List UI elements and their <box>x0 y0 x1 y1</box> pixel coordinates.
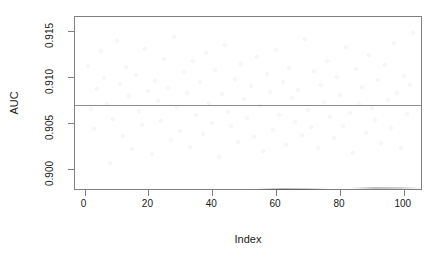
scatter-point <box>392 41 396 45</box>
scatter-point <box>102 76 106 80</box>
scatter-point <box>233 77 237 81</box>
scatter-point <box>351 151 355 155</box>
scatter-point <box>303 37 307 41</box>
scatter-point <box>300 133 304 137</box>
plot-area <box>74 16 422 190</box>
scatter-point <box>146 89 150 93</box>
scatter-point <box>373 118 377 122</box>
x-tick-label: 40 <box>206 198 217 209</box>
scatter-point <box>207 101 211 105</box>
scatter-point <box>306 108 310 112</box>
scatter-point <box>287 66 291 70</box>
scatter-point <box>178 129 182 133</box>
scatter-point <box>108 161 112 165</box>
y-axis-tick-labels: 0.9000.9050.9100.915 <box>0 16 66 190</box>
x-tick-label: 80 <box>333 198 344 209</box>
scatter-point <box>245 116 249 120</box>
scatter-point <box>111 117 115 121</box>
scatter-point <box>411 31 415 35</box>
scatter-point <box>341 124 345 128</box>
scatter-point <box>239 62 243 66</box>
x-tick-mark <box>212 189 213 196</box>
x-tick-mark <box>85 189 86 196</box>
scatter-point <box>312 69 316 73</box>
scatter-point <box>364 131 368 135</box>
scatter-point <box>150 152 154 156</box>
x-tick-label: 0 <box>81 198 87 209</box>
scatter-point <box>338 93 342 97</box>
scatter-point <box>236 140 240 144</box>
scatter-point <box>360 85 364 89</box>
scatter-point <box>252 135 256 139</box>
scatter-point <box>204 51 208 55</box>
x-tick-mark <box>148 189 149 196</box>
scatter-point <box>191 59 195 63</box>
scatter-point <box>376 78 380 82</box>
scatter-point <box>217 155 221 159</box>
scatter-point <box>143 47 147 51</box>
scatter-point <box>86 64 90 68</box>
scatter-point <box>182 70 186 74</box>
y-tick-mark <box>68 77 75 78</box>
scatter-point <box>121 134 125 138</box>
scatter-point <box>242 97 246 101</box>
scatter-point <box>332 136 336 140</box>
x-axis-title: Index <box>235 233 262 245</box>
x-tick-mark <box>404 189 405 196</box>
scatter-point <box>99 49 103 53</box>
scatter-point <box>370 106 374 110</box>
scatter-point <box>344 45 348 49</box>
scatter-point <box>328 115 332 119</box>
scatter-point <box>95 87 99 91</box>
scatter-point <box>265 72 269 76</box>
bottom-edge-artifact-right <box>350 187 422 189</box>
scatter-point <box>309 125 313 129</box>
scatter-point <box>389 126 393 130</box>
scatter-point <box>281 80 285 84</box>
x-tick-label: 100 <box>395 198 412 209</box>
scatter-point <box>124 65 128 69</box>
scatter-point <box>229 124 233 128</box>
scatter-point <box>325 59 329 63</box>
scatter-point <box>354 67 358 71</box>
scatter-point <box>153 79 157 83</box>
scatter-point <box>127 94 131 98</box>
scatter-point <box>290 96 294 100</box>
y-tick-mark <box>68 31 75 32</box>
scatter-point <box>89 107 93 111</box>
x-tick-mark <box>340 189 341 196</box>
scatter-point <box>386 98 390 102</box>
scatter-point <box>156 99 160 103</box>
scatter-point <box>293 120 297 124</box>
scatter-point <box>261 149 265 153</box>
scatter-point <box>296 88 300 92</box>
scatter-point <box>223 43 227 47</box>
scatter-point <box>379 141 383 145</box>
chart-canvas: AUC 0.9000.9050.9100.915 020406080100 In… <box>0 0 443 257</box>
scatter-point <box>335 75 339 79</box>
scatter-point <box>185 91 189 95</box>
scatter-point <box>188 145 192 149</box>
x-tick-label: 60 <box>270 198 281 209</box>
scatter-point <box>268 90 272 94</box>
scatter-point <box>383 63 387 67</box>
scatter-point <box>226 110 230 114</box>
horizontal-reference-line <box>75 105 421 106</box>
scatter-point <box>367 53 371 57</box>
scatter-point <box>134 73 138 77</box>
scatter-point <box>140 123 144 127</box>
scatter-points-layer <box>75 17 421 189</box>
scatter-point <box>249 84 253 88</box>
scatter-point <box>319 83 323 87</box>
scatter-point <box>220 92 224 96</box>
scatter-point <box>194 113 198 117</box>
scatter-point <box>166 86 170 90</box>
scatter-point <box>137 109 141 113</box>
bottom-edge-artifact-left <box>255 188 330 190</box>
x-tick-mark <box>276 189 277 196</box>
scatter-point <box>162 57 166 61</box>
scatter-point <box>172 35 176 39</box>
x-axis-tick-labels: 020406080100 <box>74 198 422 212</box>
scatter-point <box>322 100 326 104</box>
scatter-point <box>277 113 281 117</box>
